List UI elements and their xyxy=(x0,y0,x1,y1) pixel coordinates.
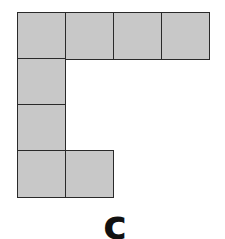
grid-square xyxy=(17,12,66,60)
figure-label: c xyxy=(100,205,130,239)
grid-square xyxy=(65,12,114,60)
grid-square xyxy=(65,150,114,198)
grid-square xyxy=(17,58,66,106)
grid-square xyxy=(17,104,66,152)
grid-square xyxy=(113,12,162,60)
grid-square xyxy=(161,12,210,60)
grid-square xyxy=(17,150,66,198)
